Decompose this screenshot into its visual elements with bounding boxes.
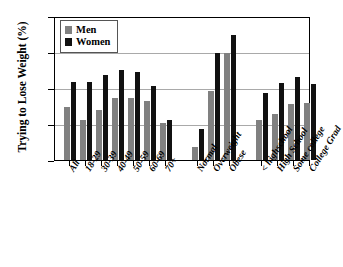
bar-women xyxy=(263,93,268,160)
bar-group xyxy=(126,18,142,160)
legend-swatch-women-icon xyxy=(65,38,72,46)
bar-group xyxy=(206,18,222,160)
legend-item-men: Men xyxy=(65,25,110,36)
bar-men xyxy=(256,120,261,160)
legend: Men Women xyxy=(60,20,118,53)
legend-label-men: Men xyxy=(76,25,96,36)
bar-men xyxy=(80,120,85,160)
y-tick-mark xyxy=(48,161,54,162)
bar-women xyxy=(151,86,156,160)
bar-women xyxy=(103,75,108,160)
legend-item-women: Women xyxy=(65,37,110,48)
bar-women xyxy=(87,82,92,159)
bar-women xyxy=(71,82,76,159)
legend-swatch-men-icon xyxy=(65,26,72,34)
bar-men xyxy=(192,147,197,160)
bar-men xyxy=(64,107,69,159)
bar-women xyxy=(135,72,140,159)
bar-women xyxy=(167,120,172,160)
bar-women xyxy=(119,70,124,160)
y-axis-title: Trying to Lose Weight (%) xyxy=(16,7,30,167)
bar-group xyxy=(158,18,174,160)
bar-group xyxy=(142,18,158,160)
bar-group xyxy=(254,18,270,160)
legend-label-women: Women xyxy=(76,37,110,48)
bar-group xyxy=(190,18,206,160)
bar-women xyxy=(215,53,220,159)
